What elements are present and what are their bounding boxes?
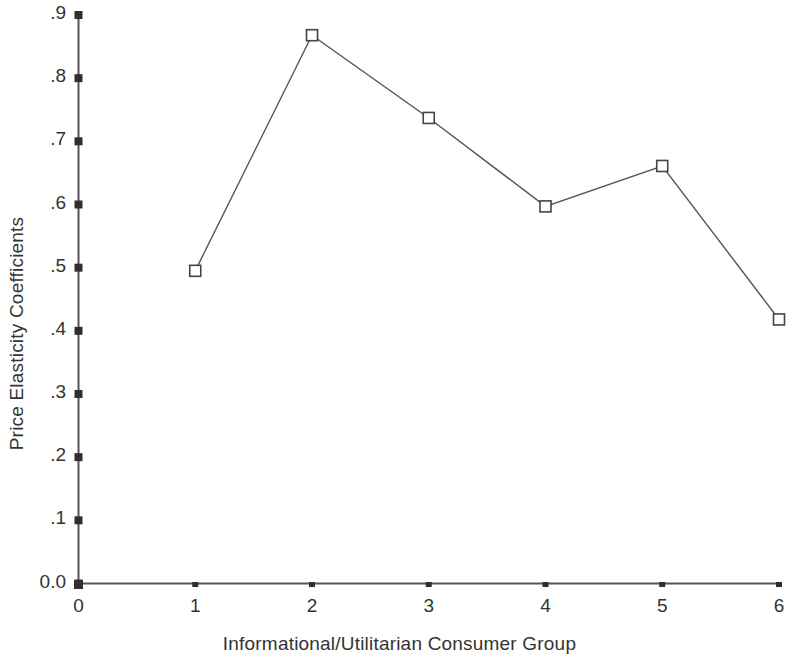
y-tick-mark [75,516,83,524]
x-tick-label: 2 [292,595,332,617]
x-tick-label: 1 [175,595,215,617]
y-tick-mark [75,201,83,209]
axes-group [78,15,779,584]
x-tick-mark [74,580,83,589]
y-axis-title: Price Elasticity Coefficients [0,0,34,667]
x-tick-mark [659,582,665,587]
x-tick-label: 5 [642,595,682,617]
y-tick-mark [75,390,83,398]
data-point-marker [774,314,785,325]
x-tick-mark [776,582,782,587]
data-point-marker [540,201,551,212]
y-tick-mark [75,137,83,145]
x-tick-mark [192,582,198,587]
y-tick-mark [75,327,83,335]
x-tick-label: 3 [409,595,449,617]
data-point-marker [657,160,668,171]
price-elasticity-line-chart: 0.0.1.2.3.4.5.6.7.8.9 0123456 Informatio… [0,0,799,667]
data-point-marker [190,265,201,276]
data-point-marker [307,30,318,41]
plot-canvas [0,0,799,667]
x-tick-label: 4 [526,595,566,617]
x-tick-mark [426,582,432,587]
y-tick-mark [75,11,83,19]
x-tick-mark [309,582,315,587]
x-tick-label: 6 [759,595,799,617]
x-tick-label: 0 [59,595,99,617]
x-tick-mark [543,582,549,587]
y-tick-mark [75,453,83,461]
data-series-line [195,35,779,319]
x-axis-title: Informational/Utilitarian Consumer Group [0,633,799,655]
y-tick-mark [75,264,83,272]
y-tick-mark [75,74,83,82]
data-point-marker [423,112,434,123]
data-point-markers [190,30,785,325]
